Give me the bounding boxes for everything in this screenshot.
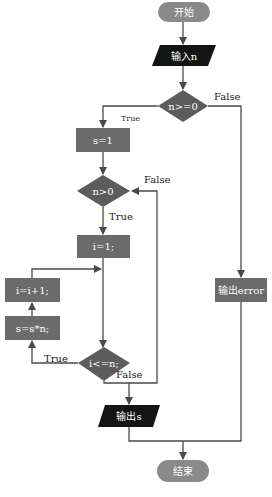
input-n-node[interactable]: 输入n (152, 45, 216, 66)
decision-i-le-n-label: i<=n; (89, 358, 119, 369)
edge-error-to-end (183, 302, 241, 441)
end-label: 结束 (173, 465, 193, 477)
output-s-node[interactable]: 输出s (98, 405, 160, 427)
end-terminal[interactable]: 结束 (157, 460, 209, 482)
process-i-increment[interactable]: i=i+1; (5, 278, 60, 302)
process-s-multiply-label: s=s*n; (16, 323, 49, 334)
input-n-label: 输入n (171, 50, 198, 62)
process-i-init-label: i=1; (93, 241, 114, 252)
start-terminal[interactable]: 开始 (158, 2, 210, 22)
connectors (32, 22, 241, 459)
output-error-node[interactable]: 输出error (215, 278, 267, 302)
decision-n-gt-0[interactable]: n>0 (77, 175, 130, 207)
edge-label-i-le-n-true: True (44, 353, 68, 364)
edge-label-n-gt-0-true: True (109, 211, 133, 222)
edge-outs-to-end (129, 427, 183, 441)
decision-n-ge-0[interactable]: n>=0 (158, 90, 208, 122)
process-s-multiply[interactable]: s=s*n; (5, 316, 60, 340)
flowchart-canvas: 开始 输入n n>=0 s=1 n>0 i=1; i=i+1; s=s*n; i… (0, 0, 272, 497)
process-s-init[interactable]: s=1 (76, 128, 130, 152)
output-error-label: 输出error (218, 284, 264, 296)
edge-inc-loop (32, 269, 101, 278)
decision-n-ge-0-label: n>=0 (168, 101, 198, 112)
process-s-init-label: s=1 (93, 135, 113, 146)
edge-label-n-ge-0-true: True (121, 114, 140, 123)
start-label: 开始 (174, 6, 194, 18)
decision-n-gt-0-label: n>0 (92, 186, 113, 197)
process-i-init[interactable]: i=1; (77, 235, 130, 258)
edge-label-n-ge-0-false: False (214, 91, 241, 102)
process-i-increment-label: i=i+1; (16, 285, 49, 296)
edge-cond1-false (208, 106, 241, 277)
edge-label-i-le-n-false: False (116, 369, 143, 380)
output-s-label: 输出s (116, 410, 141, 422)
edge-label-n-gt-0-false: False (144, 174, 171, 185)
edge-cond3-false (104, 381, 129, 404)
edge-cond2-false (129, 191, 157, 383)
